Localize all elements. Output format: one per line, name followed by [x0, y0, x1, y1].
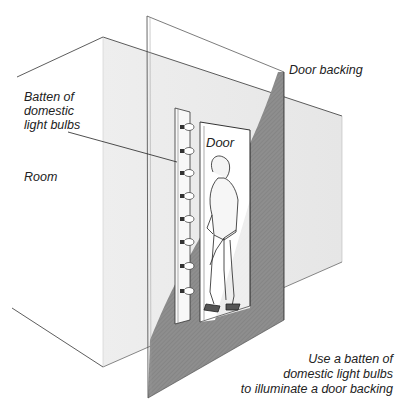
batten-label-line: domestic	[24, 104, 80, 118]
batten-label-line: light bulbs	[24, 118, 80, 132]
room-label: Room	[24, 170, 57, 184]
batten-label: Batten of domestic light bulbs	[24, 90, 80, 132]
illustration: Batten of domestic light bulbs Room Door…	[0, 0, 413, 411]
batten-label-line: Batten of	[24, 90, 80, 104]
caption-line: Use a batten of	[241, 352, 393, 367]
room-diagram	[0, 0, 413, 411]
door-backing-label: Door backing	[289, 63, 363, 77]
caption-line: domestic light bulbs	[241, 367, 393, 382]
door-label: Door	[206, 136, 234, 150]
caption: Use a batten of domestic light bulbs to …	[241, 352, 393, 397]
caption-line: to illuminate a door backing	[241, 382, 393, 397]
